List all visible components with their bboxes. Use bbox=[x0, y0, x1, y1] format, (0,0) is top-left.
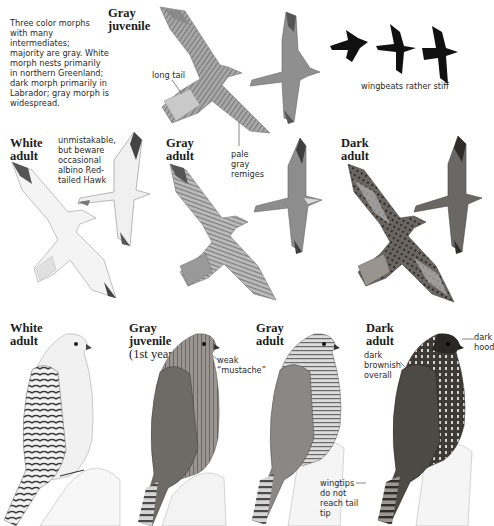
leader-line bbox=[236, 122, 242, 148]
gray-juvenile-perched-illustration bbox=[116, 328, 226, 526]
label-wingbeats: wingbeats rather stiff bbox=[361, 81, 449, 91]
dark-adult-upperside-illustration bbox=[412, 134, 492, 254]
field-guide-plate: Three color morphs with many intermediat… bbox=[0, 0, 494, 526]
heading-gray-juvenile-flight: Gray juvenile bbox=[108, 7, 150, 33]
leader-line bbox=[170, 80, 190, 96]
white-adult-perched-illustration bbox=[0, 330, 120, 526]
gray-juvenile-upperside-illustration bbox=[248, 10, 328, 125]
gray-adult-upperside-illustration bbox=[252, 136, 332, 256]
dark-adult-perched-illustration bbox=[360, 330, 480, 526]
intro-text: Three color morphs with many intermediat… bbox=[10, 18, 110, 108]
heading-gray-adult-flight: Gray adult bbox=[166, 137, 194, 163]
label-long-tail: long tail bbox=[152, 70, 185, 80]
note-wingtips: wingtips do not reach tail tip bbox=[320, 478, 358, 518]
white-adult-upperside-illustration bbox=[74, 130, 154, 248]
flight-silhouettes bbox=[326, 18, 466, 88]
heading-dark-adult-flight: Dark adult bbox=[341, 137, 369, 163]
